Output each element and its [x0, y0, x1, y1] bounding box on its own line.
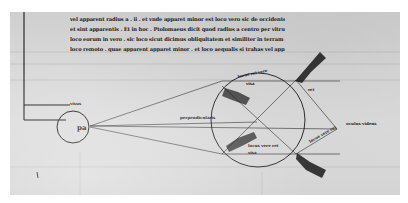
margin-label: visus — [69, 101, 82, 106]
upper-left-arc-sub-label: visa — [245, 81, 255, 86]
upper-right-small-label: rei — [308, 87, 315, 92]
eye-label: pa — [77, 123, 87, 132]
center-left-label: perpendicularis — [180, 115, 216, 120]
margin-bracket — [24, 12, 70, 120]
optics-diagram: pa visus locus rei vere visa perpendicul… — [10, 12, 400, 195]
manuscript-page: vel apparent radius a . ii . et vnde app… — [10, 12, 400, 195]
refraction-circle — [211, 73, 305, 167]
right-lower-small-label: locus vere rei — [308, 124, 337, 144]
lower-small-sub-label: visa — [247, 150, 257, 155]
lower-small-label: locus vere rei — [248, 143, 279, 148]
wedge-labels — [222, 52, 326, 178]
right-apex-label: oculus videns — [346, 121, 377, 126]
upper-left-arc-label: locus rei vere — [237, 68, 268, 79]
pen-mark — [37, 172, 38, 178]
